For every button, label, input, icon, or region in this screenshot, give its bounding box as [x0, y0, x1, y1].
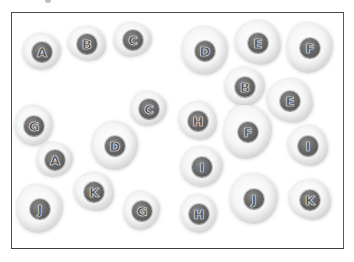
- letter-badge-icon: D: [195, 41, 215, 61]
- memory-tile-f[interactable]: F: [224, 105, 272, 159]
- memory-tile-a[interactable]: A: [37, 143, 73, 177]
- memory-tile-c[interactable]: C: [114, 23, 152, 57]
- memory-tile-k[interactable]: K: [289, 180, 331, 220]
- letter-badge-icon: K: [300, 190, 320, 210]
- top-edge-mark: [45, 0, 51, 3]
- letter-badge-icon: H: [189, 204, 209, 224]
- tile-letter: B: [240, 81, 250, 94]
- memory-tile-e[interactable]: E: [267, 79, 313, 123]
- tile-letter: A: [50, 154, 60, 167]
- memory-tile-d[interactable]: D: [182, 27, 228, 75]
- memory-tile-h[interactable]: H: [181, 195, 217, 233]
- tile-letter: F: [244, 126, 253, 139]
- memory-tile-e[interactable]: E: [235, 21, 281, 65]
- letter-badge-icon: C: [123, 30, 143, 50]
- letter-badge-icon: H: [188, 111, 208, 131]
- memory-tile-j[interactable]: J: [230, 174, 278, 224]
- tile-letter: C: [128, 34, 138, 47]
- memory-tile-g[interactable]: G: [15, 106, 53, 146]
- tile-letter: H: [194, 208, 205, 221]
- memory-tile-a[interactable]: A: [23, 34, 61, 70]
- letter-badge-icon: I: [298, 136, 318, 156]
- memory-tile-i[interactable]: I: [181, 147, 223, 187]
- memory-tile-g[interactable]: G: [124, 192, 160, 230]
- letter-badge-icon: E: [280, 91, 300, 111]
- letter-badge-icon: J: [244, 189, 264, 209]
- tile-letter: G: [137, 205, 148, 218]
- letter-badge-icon: I: [192, 157, 212, 177]
- tile-letter: J: [252, 193, 257, 206]
- tile-letter: E: [254, 37, 263, 50]
- letter-badge-icon: B: [235, 77, 255, 97]
- memory-tile-b[interactable]: B: [68, 27, 106, 61]
- tile-letter: H: [193, 115, 204, 128]
- memory-tile-i[interactable]: I: [288, 126, 328, 166]
- letter-badge-icon: A: [45, 150, 65, 170]
- letter-badge-icon: E: [248, 33, 268, 53]
- tile-letter: K: [89, 186, 99, 199]
- memory-tile-c[interactable]: C: [131, 92, 167, 126]
- tile-letter: E: [286, 95, 295, 108]
- letter-badge-icon: C: [139, 99, 159, 119]
- memory-tile-k[interactable]: K: [74, 173, 114, 211]
- tile-letter: G: [29, 120, 40, 133]
- letter-badge-icon: F: [238, 122, 258, 142]
- letter-badge-icon: B: [77, 34, 97, 54]
- letter-badge-icon: G: [132, 201, 152, 221]
- letter-badge-icon: A: [32, 42, 52, 62]
- tile-letter: F: [306, 42, 315, 55]
- tile-letter: D: [200, 45, 211, 58]
- memory-tile-d[interactable]: D: [92, 122, 138, 170]
- tile-letter: C: [144, 103, 154, 116]
- letter-badge-icon: D: [105, 136, 125, 156]
- tile-letter: B: [82, 38, 92, 51]
- tile-letter: K: [305, 194, 315, 207]
- memory-tile-f[interactable]: F: [287, 23, 333, 73]
- memory-tile-j[interactable]: J: [17, 185, 63, 233]
- tile-letter: I: [200, 161, 205, 174]
- tile-letter: J: [38, 203, 43, 216]
- tile-letter: I: [306, 140, 311, 153]
- tile-letter: A: [37, 46, 47, 59]
- letter-badge-icon: J: [30, 199, 50, 219]
- letter-badge-icon: K: [84, 182, 104, 202]
- memory-tile-b[interactable]: B: [225, 68, 265, 106]
- letter-badge-icon: F: [300, 38, 320, 58]
- letter-badge-icon: G: [24, 116, 44, 136]
- tile-letter: D: [110, 140, 121, 153]
- memory-tile-h[interactable]: H: [179, 102, 217, 140]
